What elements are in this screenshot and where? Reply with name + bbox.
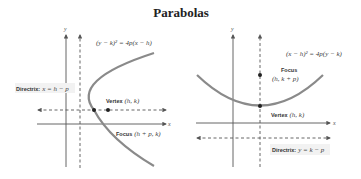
x-axis-label: x bbox=[167, 121, 171, 127]
vertex-label: Vertex(h, k) bbox=[106, 97, 140, 105]
y-axis-label: y bbox=[63, 26, 67, 32]
y-axis-label: y bbox=[230, 26, 234, 32]
vertex-point bbox=[92, 108, 96, 112]
directrix-label: Directrix:y = k − p bbox=[272, 146, 325, 154]
panel-vertical-parabola: y x (x − h)² = 4p(y − k) Focus (h, k + p… bbox=[196, 26, 343, 167]
equation-label: (y − k)² = 4p(x − h) bbox=[96, 39, 153, 47]
x-axis-label: x bbox=[332, 120, 336, 126]
diagram-title: Parabolas bbox=[153, 5, 209, 20]
parabola-curve bbox=[89, 53, 154, 166]
panel-horizontal-parabola: y x (y − k)² = 4p(x − h) Directrix:x = h… bbox=[15, 26, 171, 168]
focus-label-title: Focus bbox=[281, 67, 297, 73]
directrix-label: Directrix:x = h − p bbox=[16, 85, 69, 93]
vertex-label: Vertex(h, k) bbox=[271, 111, 305, 119]
focus-point bbox=[106, 108, 110, 112]
vertex-point bbox=[258, 104, 262, 108]
focus-point bbox=[258, 73, 262, 77]
equation-label: (x − h)² = 4p(y − k) bbox=[286, 50, 343, 58]
focus-label-coords: (h, k + p) bbox=[272, 75, 299, 83]
focus-label: Focus(h + p, k) bbox=[116, 130, 161, 138]
parabolas-diagram: Parabolas y x (y − k)² = 4p(x − h) Direc… bbox=[0, 0, 361, 179]
